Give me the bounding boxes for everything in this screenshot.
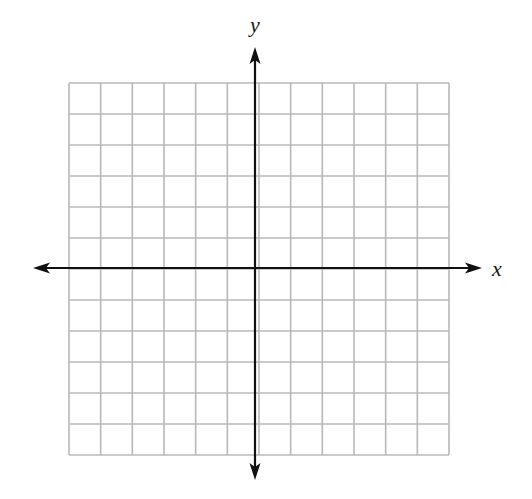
y-axis-label: y: [248, 12, 260, 37]
x-axis-label: x: [491, 256, 502, 281]
coordinate-grid-diagram: x y: [0, 0, 532, 499]
